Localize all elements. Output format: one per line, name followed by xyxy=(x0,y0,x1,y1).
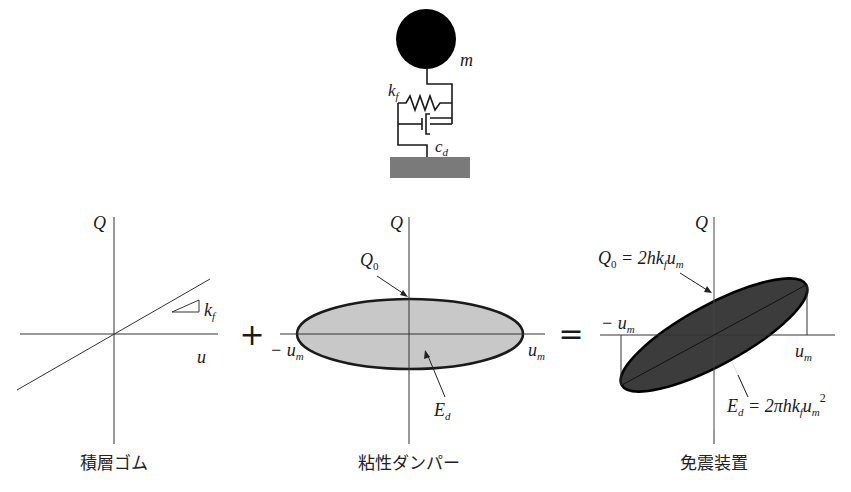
neg-um-label: − um xyxy=(270,340,304,362)
plus-operator: + xyxy=(239,317,264,352)
u-axis-label: u xyxy=(197,347,206,367)
spring-zigzag xyxy=(398,96,452,110)
spring-label: kf xyxy=(388,81,401,102)
ed-arrow-outside xyxy=(738,375,748,397)
slope-label: kf xyxy=(204,300,217,322)
panel-rubber: Q u kf 積層ゴム xyxy=(17,213,218,473)
caption-rubber: 積層ゴム xyxy=(80,453,148,473)
hysteresis-diagram: m kf cd Q u kf 積層ゴム + Q Q0 xyxy=(0,0,851,492)
q0-arrow xyxy=(680,273,707,290)
damper-cylinder xyxy=(426,114,430,134)
mass-label: m xyxy=(460,50,473,70)
upper-frame-right xyxy=(427,69,452,118)
ed-label: Ed xyxy=(433,400,451,422)
q0-label: Q0 xyxy=(360,250,379,272)
q0-equation: Q0 = 2hkfum xyxy=(598,248,684,270)
ground-block xyxy=(390,157,470,178)
ed-equation: Ed = 2πhkfum2 xyxy=(726,391,826,418)
caption-isolator: 免震装置 xyxy=(680,453,748,473)
damper-label: cd xyxy=(435,137,449,158)
panel-isolator: Q Q0 = 2hkfum − um um Ed = 2πhkfum2 免震装置 xyxy=(598,213,835,473)
caption-damper: 粘性ダンパー xyxy=(358,453,460,473)
q-axis-label: Q xyxy=(93,213,106,233)
q0-arrowhead xyxy=(704,286,712,293)
mass-circle xyxy=(396,9,456,69)
neg-um-label: − um xyxy=(601,313,635,335)
q0-arrow xyxy=(377,276,404,294)
um-label: um xyxy=(795,341,812,363)
q-axis-label: Q xyxy=(695,213,708,233)
um-label: um xyxy=(528,340,545,362)
q0-arrowhead xyxy=(400,290,408,297)
q-axis-label: Q xyxy=(390,213,403,233)
slope-triangle xyxy=(172,300,199,312)
equals-operator: = xyxy=(558,316,583,351)
mechanical-model: m kf cd xyxy=(388,9,473,178)
panel-damper: Q Q0 − um um Ed 粘性ダンパー xyxy=(270,213,545,473)
